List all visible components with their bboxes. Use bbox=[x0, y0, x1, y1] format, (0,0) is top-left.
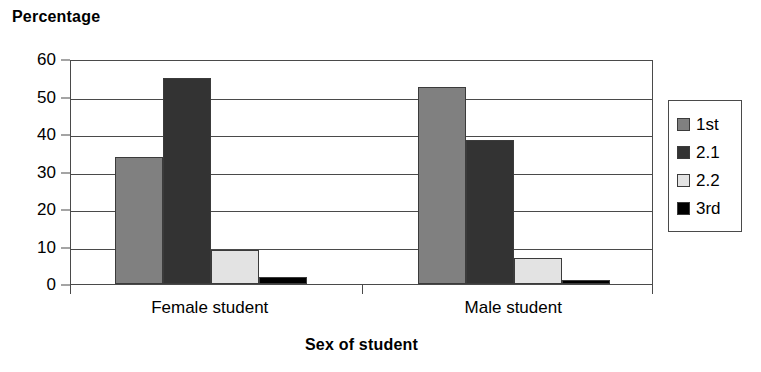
bar bbox=[211, 250, 259, 284]
y-axis-tick-label: 30 bbox=[37, 163, 56, 183]
bar-chart: Percentage 0102030405060 Female studentM… bbox=[0, 0, 761, 372]
legend-swatch-icon bbox=[677, 118, 690, 131]
y-axis-tick-mark bbox=[61, 60, 70, 61]
bar bbox=[259, 277, 307, 285]
legend-swatch-icon bbox=[677, 202, 690, 215]
x-axis-tick-mark bbox=[652, 285, 653, 294]
y-axis-tick-label: 10 bbox=[37, 238, 56, 258]
y-axis-tick-label: 40 bbox=[37, 125, 56, 145]
bar bbox=[163, 78, 211, 284]
bar bbox=[115, 157, 163, 285]
x-axis-category-label: Female student bbox=[151, 298, 268, 318]
bar-group bbox=[115, 61, 307, 284]
x-axis-category-label: Male student bbox=[465, 298, 562, 318]
legend-item: 1st bbox=[677, 110, 734, 138]
y-axis-tick-mark bbox=[61, 210, 70, 211]
y-axis-tick-labels: 0102030405060 bbox=[0, 60, 70, 285]
x-axis-title: Sex of student bbox=[70, 336, 653, 354]
y-axis-tick-mark bbox=[61, 247, 70, 248]
legend-item-label: 2.1 bbox=[696, 144, 720, 161]
bar bbox=[562, 280, 610, 284]
legend-item: 2.1 bbox=[677, 138, 734, 166]
y-axis-tick-mark bbox=[61, 285, 70, 286]
legend-item: 2.2 bbox=[677, 166, 734, 194]
y-axis-tick-label: 50 bbox=[37, 88, 56, 108]
y-axis-tick-mark bbox=[61, 97, 70, 98]
legend-item-label: 1st bbox=[696, 116, 719, 133]
x-axis-category-labels: Female studentMale student bbox=[70, 298, 653, 324]
legend-item-label: 3rd bbox=[696, 200, 721, 217]
bar bbox=[514, 258, 562, 284]
plot-area bbox=[70, 60, 653, 285]
y-axis-tick-mark bbox=[61, 172, 70, 173]
x-axis-tick-mark bbox=[70, 285, 71, 294]
bars-layer bbox=[71, 61, 652, 284]
y-axis-title: Percentage bbox=[12, 8, 100, 26]
legend-swatch-icon bbox=[677, 174, 690, 187]
bar bbox=[466, 140, 514, 284]
y-axis-tick-label: 60 bbox=[37, 50, 56, 70]
bar bbox=[418, 87, 466, 284]
x-axis-tick-mark bbox=[362, 285, 363, 294]
y-axis-tick-label: 20 bbox=[37, 200, 56, 220]
legend-item: 3rd bbox=[677, 194, 734, 222]
legend-item-label: 2.2 bbox=[696, 172, 720, 189]
bar-group bbox=[418, 61, 610, 284]
y-axis-tick-label: 0 bbox=[47, 275, 56, 295]
x-axis-ticks bbox=[70, 285, 653, 295]
y-axis-tick-mark bbox=[61, 135, 70, 136]
legend-swatch-icon bbox=[677, 146, 690, 159]
legend: 1st2.12.23rd bbox=[668, 100, 742, 232]
